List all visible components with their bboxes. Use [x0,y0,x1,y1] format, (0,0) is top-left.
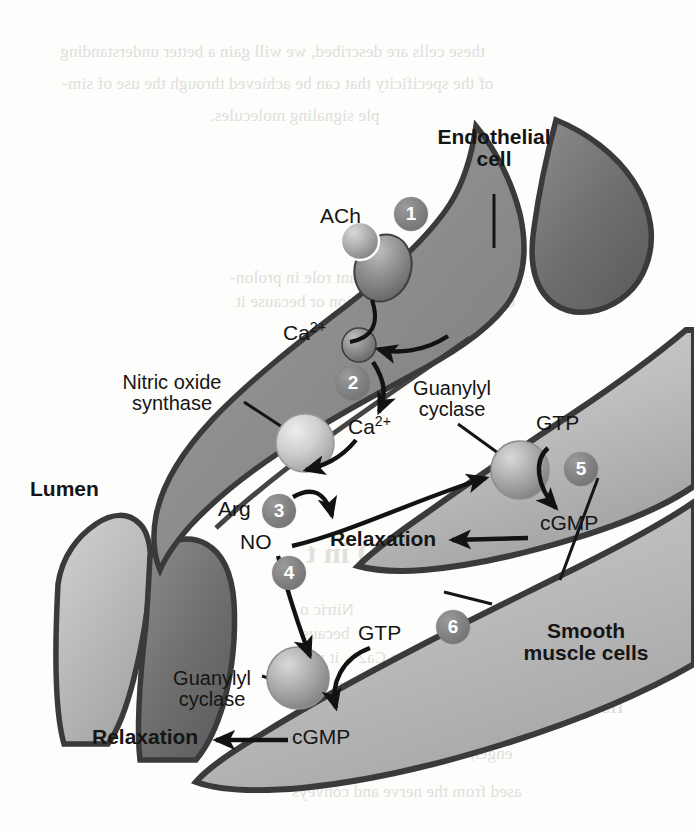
label-gtp-lower: GTP [358,622,401,644]
label-nos-line2: synthase [132,392,212,414]
label-endothelial-cell: Endothelial cell [412,126,576,170]
vessel-artwork [0,0,694,830]
step-badge-1: 1 [394,197,428,231]
step-badge-6: 6 [436,610,470,644]
arrow-arg-to-no [293,492,332,516]
label-nos-line1: Nitric oxide [123,371,222,393]
label-gc-upper-line1: Guanylyl [413,377,491,399]
arrow-cgmp-to-relaxation-upper [452,538,528,540]
label-gc-lower-line2: cyclase [179,688,246,710]
label-calcium-intracellular-charge: 2+ [375,413,391,429]
label-lumen: Lumen [30,478,99,500]
step-badge-5: 5 [564,452,598,486]
label-guanylyl-cyclase-upper: Guanylyl cyclase [394,378,510,420]
guanylyl-cyclase-sphere-lower [267,647,329,709]
label-smooth-muscle-line2: muscle cells [524,641,649,664]
step-badge-3: 3 [262,494,296,528]
diagram-canvas: these cells are described, we will gain … [0,0,694,830]
ach-ligand-sphere [341,222,379,260]
label-calcium-extracellular-charge: 2+ [310,319,326,335]
label-endothelial-cell-line1: Endothelial [437,125,550,148]
label-relaxation-lower: Relaxation [92,726,198,748]
label-calcium-intracellular-text: Ca [348,415,375,438]
label-gtp-upper: GTP [536,412,579,434]
label-smooth-muscle-line1: Smooth [547,619,625,642]
label-endothelial-cell-line2: cell [476,147,511,170]
label-smooth-muscle-cells: Smooth muscle cells [488,620,684,664]
step-badge-2: 2 [336,366,370,400]
label-gc-lower-line1: Guanylyl [173,667,251,689]
label-guanylyl-cyclase-lower: Guanylyl cyclase [154,668,270,710]
label-cgmp-lower: cGMP [292,726,350,748]
label-calcium-extracellular: Ca2+ [283,320,326,344]
label-calcium-intracellular: Ca2+ [348,414,391,438]
label-relaxation-upper: Relaxation [330,528,436,550]
step-badge-4: 4 [272,556,306,590]
leader-smooth-muscle-lower [444,592,492,604]
label-nitric-oxide: NO [240,531,272,553]
label-ach: ACh [320,205,361,227]
label-nitric-oxide-synthase: Nitric oxide synthase [96,372,248,414]
label-gc-upper-line2: cyclase [419,398,486,420]
label-arginine: Arg [218,498,251,520]
label-cgmp-upper: cGMP [540,512,598,534]
label-calcium-extracellular-text: Ca [283,321,310,344]
